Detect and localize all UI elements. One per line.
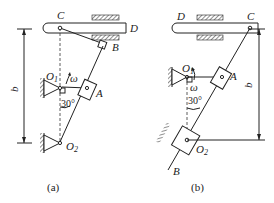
label-angle: 30° (61, 98, 75, 109)
guide-bottom-hatch (92, 35, 119, 40)
pin-a (85, 86, 88, 89)
support-o2 (44, 135, 60, 151)
label-omega: ω (70, 72, 78, 84)
figure-a: C D B O1 ω A 30° O2 b (a) (8, 9, 138, 194)
label-c: C (247, 10, 255, 22)
angle-arc (187, 108, 200, 110)
pin-c (58, 26, 62, 30)
label-b-dim: b (242, 82, 254, 88)
label-omega: ω (190, 81, 198, 93)
label-o1: O1 (182, 62, 194, 76)
caption-a: (a) (47, 181, 60, 194)
ground-o1-hatch (168, 67, 172, 87)
label-d: D (176, 10, 185, 22)
label-o2: O2 (196, 143, 208, 157)
guide-top-hatch (92, 15, 119, 20)
ground-o2-hatch (40, 133, 44, 153)
label-b: B (112, 41, 119, 53)
label-c: C (57, 9, 65, 21)
slotted-bar-cd (43, 23, 126, 33)
mechanism-diagram: C D B O1 ω A 30° O2 b (a) (0, 0, 274, 203)
pin-o2 (58, 141, 61, 144)
pin-o1 (58, 86, 61, 89)
guide-bottom-hatch (197, 35, 223, 40)
guide-top-hatch (197, 15, 223, 20)
ground-o2-hatch (156, 122, 170, 143)
slotted-bar-dc (172, 23, 258, 33)
ground-o1-hatch (40, 78, 44, 98)
label-d: D (129, 22, 138, 34)
figure-b: D C O1 A ω 30° O2 B b (b) (156, 10, 265, 194)
label-a: A (95, 87, 103, 99)
label-o1: O1 (46, 70, 58, 84)
label-o2: O2 (66, 140, 78, 154)
label-b-dim: b (8, 86, 20, 92)
caption-b: (b) (191, 181, 204, 194)
label-b: B (173, 165, 180, 177)
pin-a (220, 75, 223, 78)
label-a: A (229, 70, 237, 82)
label-angle: 30° (188, 95, 202, 106)
